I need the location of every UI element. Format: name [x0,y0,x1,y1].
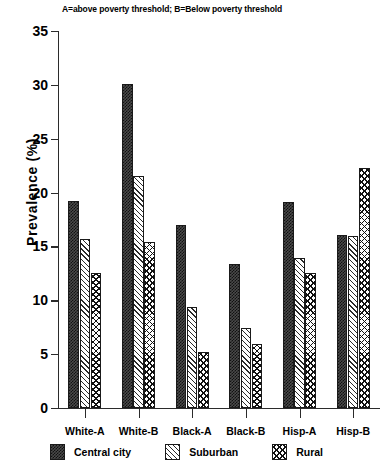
y-tick-mark [51,139,58,140]
bar-white-a-central-city [68,201,79,408]
bar-chart-figure: A=above poverty threshold; B=Below pover… [0,0,387,472]
x-label-white-a: White-A [65,425,105,437]
bar-black-a-central-city [176,225,187,408]
bar-hisp-a-suburban [294,258,305,408]
bar-hisp-a-central-city [283,202,294,408]
legend-item-rural: Rural [272,444,323,460]
bar-white-a-rural [91,273,102,408]
bar-group-hisp-a [283,31,316,408]
bar-black-b-rural [252,344,263,408]
y-tick-mark [51,246,58,247]
bar-group-black-a [176,31,209,408]
x-tick-mark [246,409,247,418]
y-tick-mark [51,300,58,301]
x-label-hisp-a: Hisp-A [283,425,317,437]
bar-group-white-b [122,31,155,408]
bar-black-a-rural [198,352,209,408]
y-tick-label: 5 [40,346,48,362]
x-tick-mark [139,409,140,418]
legend-item-central-city: Central city [50,444,131,460]
bar-white-b-central-city [122,84,133,408]
x-label-black-a: Black-A [173,425,212,437]
x-label-black-b: Black-B [226,425,265,437]
y-tick-mark [51,408,58,409]
bar-group-white-a [68,31,101,408]
x-label-hisp-b: Hisp-B [336,425,370,437]
x-label-white-b: White-B [119,425,159,437]
y-tick-label: 20 [32,185,48,201]
bar-black-b-suburban [241,328,252,408]
legend-swatch-rural-icon [272,444,287,460]
y-tick-label: 25 [32,131,48,147]
bar-hisp-b-central-city [337,235,348,408]
bar-white-a-suburban [80,239,91,408]
chart-legend: Central citySuburbanRural [50,444,323,460]
y-tick-label: 30 [32,77,48,93]
legend-swatch-central-city-icon [50,444,65,460]
bar-hisp-a-rural [305,273,316,408]
bar-group-hisp-b [337,31,370,408]
x-axis-line [58,408,380,409]
y-tick-label: 35 [32,23,48,39]
y-tick-label: 15 [32,238,48,254]
bar-white-b-suburban [133,176,144,408]
bar-group-black-b [229,31,262,408]
y-tick-label: 10 [32,292,48,308]
x-tick-mark [192,409,193,418]
chart-title: A=above poverty threshold; B=Below pover… [62,4,382,14]
bar-black-b-central-city [229,264,240,408]
legend-item-suburban: Suburban [165,444,238,460]
x-tick-mark [300,409,301,418]
legend-label: Rural [296,446,323,458]
y-tick-mark [51,31,58,32]
x-tick-mark [353,409,354,418]
bar-white-b-rural [144,242,155,408]
legend-swatch-suburban-icon [165,444,180,460]
y-tick-label: 0 [40,400,48,416]
legend-label: Suburban [189,446,238,458]
y-axis-line [58,31,59,408]
y-tick-mark [51,85,58,86]
y-tick-mark [51,354,58,355]
bar-hisp-b-rural [359,168,370,408]
bar-hisp-b-suburban [348,236,359,408]
y-tick-mark [51,193,58,194]
legend-label: Central city [74,446,131,458]
bar-black-a-suburban [187,307,198,408]
x-tick-mark [85,409,86,418]
plot-area: 05101520253035 White-AWhite-BBlack-ABlac… [58,31,380,408]
